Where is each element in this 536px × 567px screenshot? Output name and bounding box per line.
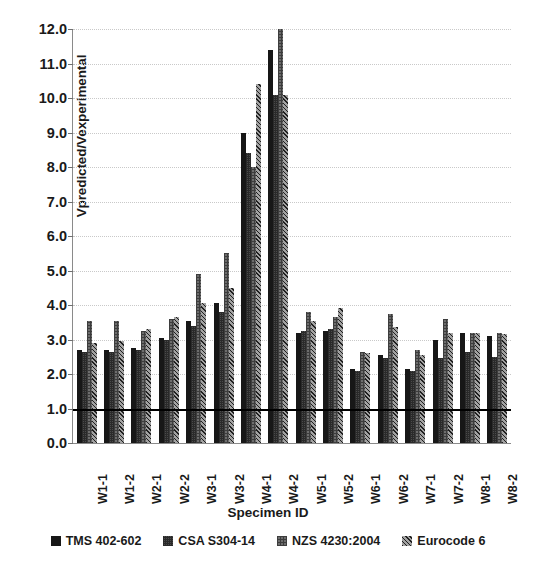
bar-group xyxy=(456,29,483,443)
bar-chart: Vpredicted/Vexperimental 0.01.02.03.04.0… xyxy=(0,0,536,567)
bar-group xyxy=(402,29,429,443)
bar xyxy=(475,333,480,443)
legend-item[interactable]: CSA S304-14 xyxy=(163,534,255,548)
y-tick-label: 9.0 xyxy=(47,125,67,140)
bar-series-layer xyxy=(73,29,511,443)
bar-group xyxy=(347,29,374,443)
bar xyxy=(283,95,288,443)
x-tick-label: W7-1 xyxy=(424,446,438,504)
bar xyxy=(338,308,343,443)
y-tick-label: 6.0 xyxy=(47,229,67,244)
x-tick-label: W1-2 xyxy=(123,446,137,504)
x-tick-label: W8-1 xyxy=(479,446,493,504)
bar xyxy=(146,329,151,443)
reference-line-1.0 xyxy=(73,409,511,411)
y-tick-label: 5.0 xyxy=(47,263,67,278)
bar-group xyxy=(484,29,511,443)
y-tick-label: 11.0 xyxy=(40,56,67,71)
bar xyxy=(448,333,453,443)
legend-item[interactable]: Eurocode 6 xyxy=(402,534,485,548)
y-axis-tick-labels: 0.01.02.03.04.05.06.07.08.09.010.011.012… xyxy=(0,0,72,567)
bar-group xyxy=(374,29,401,443)
bar xyxy=(119,341,124,443)
plot-area xyxy=(72,29,511,443)
x-tick-label: W2-1 xyxy=(150,446,164,504)
bar xyxy=(201,303,206,443)
y-tick-label: 2.0 xyxy=(47,367,67,382)
x-tick-label: W6-1 xyxy=(369,446,383,504)
x-tick-label: W7-2 xyxy=(452,446,466,504)
bar-group xyxy=(210,29,237,443)
bar xyxy=(502,334,507,443)
x-tick-label: W3-2 xyxy=(233,446,247,504)
y-tick-label: 7.0 xyxy=(47,194,67,209)
x-tick-label: W6-2 xyxy=(397,446,411,504)
bar-group xyxy=(100,29,127,443)
y-tick-label: 8.0 xyxy=(47,160,67,175)
x-tick-label: W1-1 xyxy=(96,446,110,504)
bar xyxy=(174,317,179,443)
legend-swatch xyxy=(277,536,287,546)
bar-group xyxy=(128,29,155,443)
x-tick-label: W2-2 xyxy=(178,446,192,504)
x-axis-tick-labels: W1-1W1-2W2-1W2-2W3-1W3-2W4-1W4-2W5-1W5-2… xyxy=(72,446,510,506)
y-tick-label: 10.0 xyxy=(39,91,67,106)
x-tick-label: W5-2 xyxy=(342,446,356,504)
chart-legend: TMS 402-602CSA S304-14NZS 4230:2004Euroc… xyxy=(0,534,536,548)
x-axis-line xyxy=(73,443,511,444)
x-tick-label: W4-1 xyxy=(260,446,274,504)
x-axis-title: Specimen ID xyxy=(0,505,536,520)
bar-group xyxy=(292,29,319,443)
bar-group xyxy=(319,29,346,443)
legend-label: NZS 4230:2004 xyxy=(292,534,380,548)
y-tick-label: 12.0 xyxy=(39,22,67,37)
bar-group xyxy=(183,29,210,443)
legend-swatch xyxy=(402,536,412,546)
bar xyxy=(311,321,316,443)
bar-group xyxy=(155,29,182,443)
x-tick-label: W4-2 xyxy=(287,446,301,504)
legend-item[interactable]: NZS 4230:2004 xyxy=(277,534,380,548)
bar xyxy=(92,343,97,443)
legend-label: CSA S304-14 xyxy=(178,534,255,548)
legend-swatch xyxy=(163,536,173,546)
bar xyxy=(365,353,370,443)
bar-group xyxy=(73,29,100,443)
bar-group xyxy=(429,29,456,443)
legend-label: Eurocode 6 xyxy=(417,534,485,548)
bar-group xyxy=(265,29,292,443)
bar xyxy=(256,84,261,443)
y-tick-label: 1.0 xyxy=(47,401,67,416)
y-tick-label: 4.0 xyxy=(47,298,67,313)
x-tick-label: W3-1 xyxy=(205,446,219,504)
y-tick-label: 3.0 xyxy=(47,332,67,347)
legend-item[interactable]: TMS 402-602 xyxy=(51,534,142,548)
legend-label: TMS 402-602 xyxy=(66,534,142,548)
x-tick-label: W5-1 xyxy=(315,446,329,504)
bar xyxy=(229,288,234,443)
bar xyxy=(393,327,398,443)
x-tick-label: W8-2 xyxy=(506,446,520,504)
y-tick-label: 0.0 xyxy=(47,436,67,451)
bar-group xyxy=(237,29,264,443)
bar xyxy=(420,355,425,443)
legend-swatch xyxy=(51,536,61,546)
